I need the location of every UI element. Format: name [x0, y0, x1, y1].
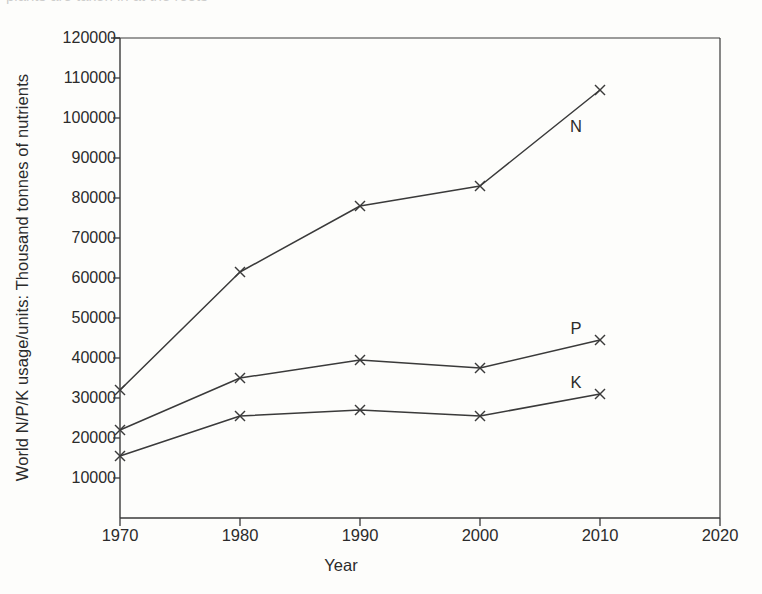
- x-axis-label-text: Year: [324, 556, 357, 574]
- plot-area: [0, 0, 762, 594]
- series-line-K: [120, 394, 600, 456]
- x-axis-label: Year: [0, 556, 762, 575]
- series-line-P: [120, 340, 600, 430]
- series-line-N: [120, 90, 600, 390]
- data-point-P-2010: [595, 335, 605, 345]
- chart-figure: plants are taken in at the roots World N…: [0, 0, 762, 594]
- data-point-N-2010: [595, 85, 605, 95]
- data-point-N-1980: [235, 267, 245, 277]
